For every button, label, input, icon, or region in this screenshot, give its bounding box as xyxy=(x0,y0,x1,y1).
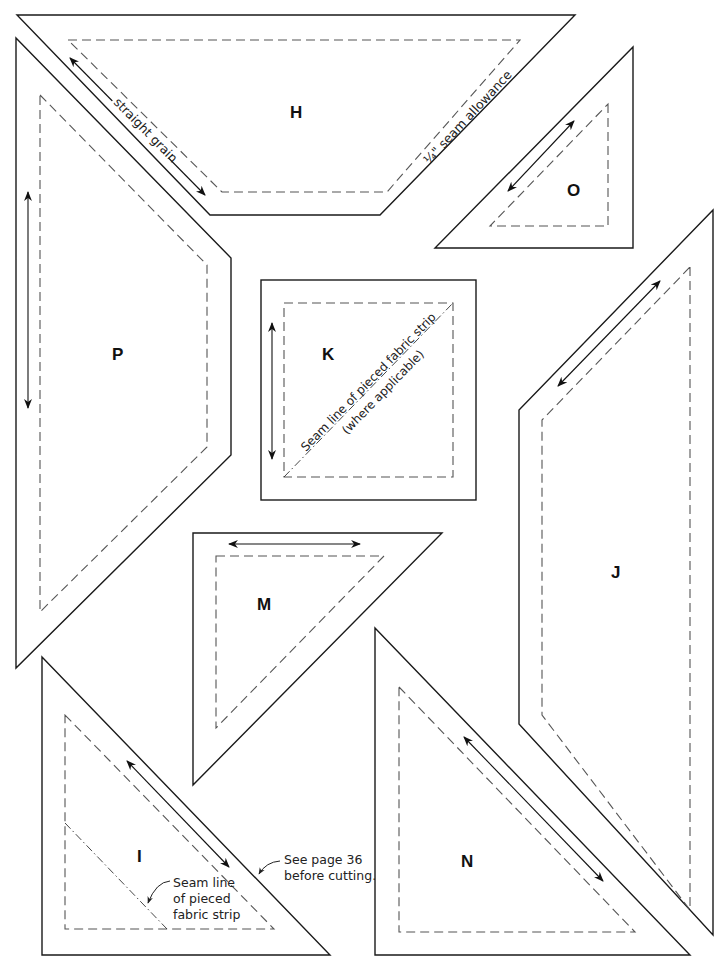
pattern-canvas: H straight grain ¼" seam allowance O P K… xyxy=(0,0,728,972)
piece-j-label: J xyxy=(611,563,620,582)
piece-p-label: P xyxy=(112,345,123,364)
piece-o-label: O xyxy=(567,181,580,200)
piece-i-label: I xyxy=(137,847,142,866)
i-seam-line-label-2: of pieced xyxy=(173,891,231,906)
see-page-pointer-arrow xyxy=(259,861,280,874)
piece-k: K Seam line of pieced fabric strip (wher… xyxy=(261,280,476,500)
piece-m-label: M xyxy=(257,595,271,614)
piece-h-label: H xyxy=(290,103,302,122)
i-seam-line-label-1: Seam line xyxy=(173,875,235,890)
i-seam-line-label-3: fabric strip xyxy=(173,907,240,922)
see-page-label-1: See page 36 xyxy=(284,852,362,867)
piece-k-label: K xyxy=(322,345,335,364)
piece-n-label: N xyxy=(461,852,473,871)
see-page-label-2: before cutting. xyxy=(284,868,376,883)
